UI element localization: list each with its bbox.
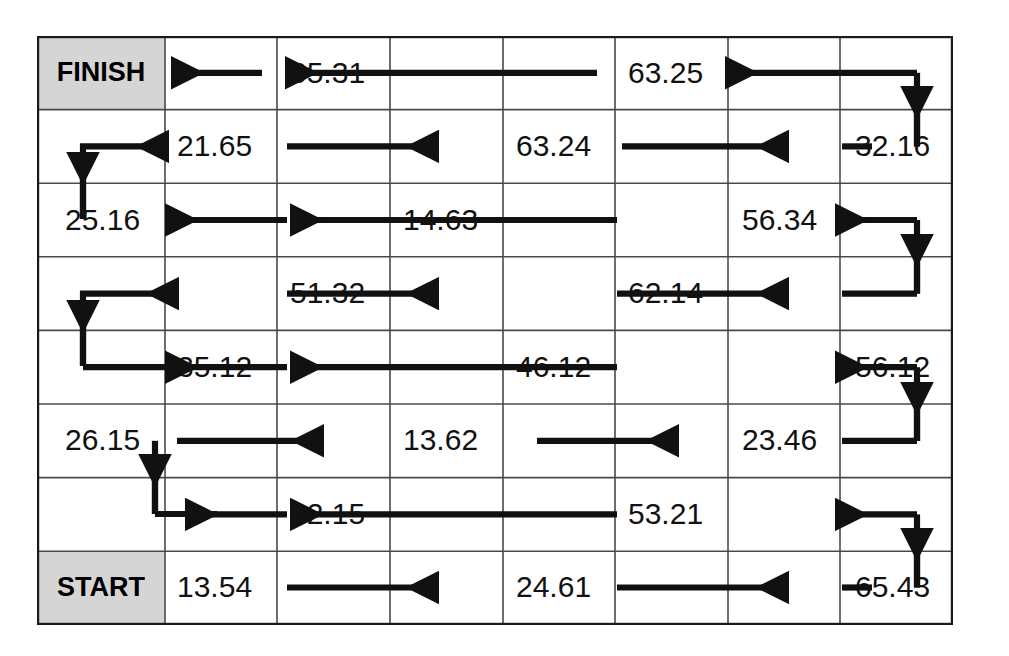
value-r4c7: 56.12 [855, 346, 955, 388]
value-r1c4: 63.24 [516, 125, 616, 167]
value-r3c2: 51.32 [290, 272, 390, 314]
value-r0c2: 65.31 [290, 52, 390, 94]
value-r0c5: 63.25 [628, 52, 728, 94]
diagram-canvas: FINISH 65.31 63.25 21.65 63.24 32.16 25.… [0, 0, 1009, 656]
value-r7c4: 24.61 [516, 566, 616, 608]
value-r5c3: 13.62 [403, 419, 503, 461]
value-r3c5: 62.14 [628, 272, 728, 314]
value-r1c7: 32.16 [855, 125, 955, 167]
value-r7c7: 65.43 [855, 566, 955, 608]
finish-label: FINISH [37, 36, 165, 110]
start-label: START [37, 551, 165, 625]
flow-arrows [37, 36, 953, 625]
value-r5c0: 26.15 [65, 419, 165, 461]
value-r7c1: 13.54 [177, 566, 277, 608]
connector-r4-to-r3-left [83, 294, 177, 366]
value-r2c6: 56.34 [742, 199, 842, 241]
value-r2c0: 25.16 [65, 199, 165, 241]
value-r4c4: 46.12 [516, 346, 616, 388]
value-r1c1: 21.65 [177, 125, 277, 167]
serpentine-flow-board: FINISH 65.31 63.25 21.65 63.24 32.16 25.… [37, 36, 953, 625]
value-r6c5: 53.21 [628, 493, 728, 535]
value-r4c1: 35.12 [177, 346, 277, 388]
value-r2c3: 14.63 [403, 199, 503, 241]
value-r5c6: 23.46 [742, 419, 842, 461]
value-r6c2: 42.15 [290, 493, 390, 535]
